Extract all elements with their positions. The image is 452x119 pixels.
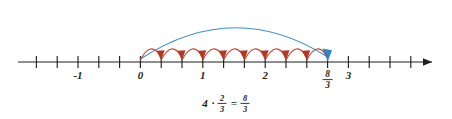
equation-factor: 4 bbox=[201, 97, 208, 109]
tick-label-1: 1 bbox=[200, 69, 206, 81]
eight-thirds-denominator: 3 bbox=[324, 80, 330, 90]
equation: 4 · 2 3 = 8 3 bbox=[201, 93, 249, 114]
total-arc-blue bbox=[140, 28, 326, 59]
equation-result-denominator: 3 bbox=[242, 104, 248, 114]
eight-thirds-numerator: 8 bbox=[325, 69, 330, 79]
equation-equals: = bbox=[231, 97, 237, 109]
number-line-figure: -1 0 1 2 8 3 3 4 · 2 3 = 8 3 bbox=[0, 0, 452, 119]
equation-operator: · bbox=[212, 97, 215, 109]
hop-arcs-red bbox=[140, 49, 326, 61]
number-line-diagram: -1 0 1 2 8 3 3 4 · 2 3 = 8 3 bbox=[0, 0, 452, 119]
equation-result-numerator: 8 bbox=[243, 93, 248, 103]
tick-label-2: 2 bbox=[261, 69, 268, 81]
tick-label-3: 3 bbox=[345, 69, 352, 81]
equation-multiplicand-denominator: 3 bbox=[219, 104, 225, 114]
axis-right-arrow-icon bbox=[423, 58, 432, 66]
equation-multiplicand-numerator: 2 bbox=[219, 93, 225, 103]
tick-label-neg-1: -1 bbox=[73, 69, 82, 81]
tick-label-0: 0 bbox=[138, 69, 144, 81]
tick-label-eight-thirds: 8 3 bbox=[323, 69, 333, 90]
